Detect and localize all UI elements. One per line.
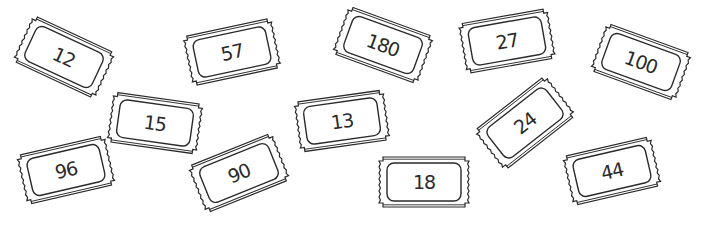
ticket-number: 12	[13, 15, 116, 98]
ticket-number: 27	[458, 9, 555, 74]
ticket-number: 24	[474, 76, 576, 171]
ticket-12: 12	[13, 15, 116, 98]
ticket-15: 15	[107, 92, 203, 154]
ticket-13: 13	[294, 90, 390, 152]
ticket-100: 100	[590, 23, 692, 101]
ticket-number: 90	[188, 133, 290, 213]
ticket-number: 57	[183, 18, 281, 86]
ticket-96: 96	[17, 136, 116, 205]
ticket-number: 96	[17, 136, 116, 205]
ticket-27: 27	[458, 9, 555, 74]
ticket-number: 15	[107, 92, 203, 154]
ticket-number: 18	[379, 157, 469, 207]
ticket-24: 24	[474, 76, 576, 171]
ticket-number: 13	[294, 90, 390, 152]
ticket-180: 180	[332, 6, 434, 84]
ticket-44: 44	[563, 137, 662, 206]
ticket-number: 44	[563, 137, 662, 206]
ticket-18: 18	[379, 157, 469, 207]
ticket-90: 90	[188, 133, 290, 213]
ticket-57: 57	[183, 18, 281, 86]
